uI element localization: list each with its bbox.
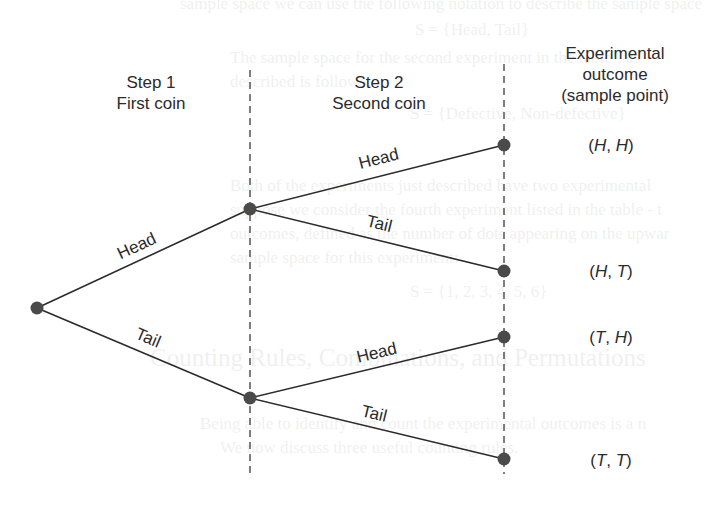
node-first-tail (244, 392, 257, 405)
branch-label-t-head: Head (355, 339, 399, 367)
outcome-hh-second: H (616, 136, 628, 155)
tree-diagram: Head Tail Head Tail Head Tail (0, 0, 717, 508)
branch-root-tail (37, 308, 250, 398)
branch-label-root-head: Head (114, 229, 159, 263)
branch-label-h-tail: Tail (365, 211, 394, 236)
leaf-node-ht (498, 265, 511, 278)
outcome-tt-second: T (616, 451, 626, 470)
leaf-node-th (498, 331, 511, 344)
outcome-ht-second: T (617, 262, 627, 281)
outcome-tt: (T, T) (590, 451, 632, 471)
leaf-node-tt (498, 453, 511, 466)
branch-root-head (37, 209, 250, 308)
outcome-hh-first: H (594, 136, 606, 155)
outcome-th: (T, H) (589, 328, 632, 348)
outcome-th-second: H (615, 328, 627, 347)
root-node (31, 302, 44, 315)
branch-label-t-tail: Tail (360, 401, 389, 425)
outcome-th-first: T (595, 328, 605, 347)
branch-label-root-tail: Tail (133, 324, 164, 351)
outcome-ht-first: H (595, 262, 607, 281)
node-first-head (244, 203, 257, 216)
leaf-node-hh (498, 139, 511, 152)
outcome-hh: (H, H) (588, 136, 633, 156)
branch-label-h-head: Head (357, 145, 401, 173)
outcome-tt-first: T (596, 451, 606, 470)
outcome-ht: (H, T) (589, 262, 632, 282)
